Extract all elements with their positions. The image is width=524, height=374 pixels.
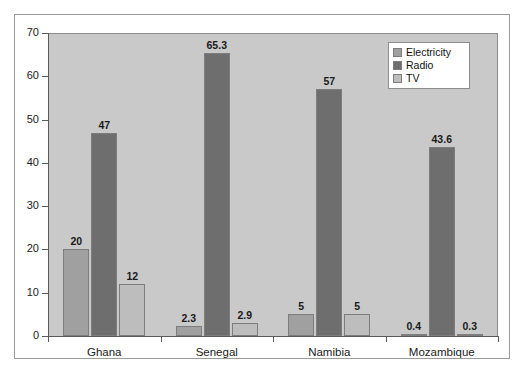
y-axis-tick <box>42 120 49 121</box>
x-axis-category-label: Mozambique <box>386 346 499 359</box>
bar[interactable] <box>91 133 117 336</box>
y-axis-tick-label-text: 70 <box>15 27 39 38</box>
legend-swatch-electricity-icon <box>393 48 402 57</box>
bar-value-label: 5 <box>337 301 377 312</box>
y-axis-tick-label: 30 <box>15 200 39 211</box>
y-axis-tick <box>42 76 49 77</box>
bar[interactable] <box>344 314 370 336</box>
x-axis-tick <box>161 336 162 342</box>
bar[interactable] <box>288 314 314 336</box>
bar-value-label: 0.4 <box>394 321 434 332</box>
bar-value-label: 47 <box>84 120 124 131</box>
bar-value-label: 57 <box>309 76 349 87</box>
bar-value-label: 65.3 <box>197 40 237 51</box>
bar[interactable] <box>316 89 342 336</box>
bar-slot <box>63 33 89 336</box>
bar-slot <box>119 33 145 336</box>
y-axis-tick-label-text: 60 <box>15 70 39 81</box>
x-axis-category-label: Ghana <box>48 346 161 359</box>
legend-label-radio: Radio <box>406 60 433 71</box>
y-axis-tick <box>42 293 49 294</box>
bar[interactable] <box>63 249 89 336</box>
legend-label-tv: TV <box>406 73 419 84</box>
bar-value-label: 2.3 <box>169 313 209 324</box>
y-axis-tick-label-text: 20 <box>15 243 39 254</box>
y-axis-tick-label-text: 0 <box>15 330 39 341</box>
bar-value-label: 12 <box>112 271 152 282</box>
bar[interactable] <box>176 326 202 336</box>
y-axis-tick-label: 50 <box>15 114 39 125</box>
y-axis-tick-label-text: 30 <box>15 200 39 211</box>
bar-slot <box>204 33 230 336</box>
bar-slot <box>176 33 202 336</box>
y-axis-tick-label-text: 50 <box>15 114 39 125</box>
y-axis-tick-label: 60 <box>15 70 39 81</box>
y-axis-tick-label: 20 <box>15 243 39 254</box>
legend-swatch-tv-icon <box>393 74 402 83</box>
bar-slot <box>232 33 258 336</box>
bar[interactable] <box>401 334 427 336</box>
legend-item-radio: Radio <box>393 59 465 71</box>
x-axis-tick <box>273 336 274 342</box>
bar[interactable] <box>429 147 455 336</box>
bar[interactable] <box>119 284 145 336</box>
bar-value-label: 0.3 <box>450 321 490 332</box>
chart-legend: Electricity Radio TV <box>388 42 470 89</box>
bar[interactable] <box>457 334 483 336</box>
y-axis-tick <box>42 163 49 164</box>
bar-value-label: 2.9 <box>225 310 265 321</box>
bar-slot <box>91 33 117 336</box>
y-axis-tick-label: 0 <box>15 330 39 341</box>
y-axis-tick <box>42 206 49 207</box>
y-axis-tick <box>42 33 49 34</box>
x-axis-tick <box>48 336 49 342</box>
legend-item-electricity: Electricity <box>393 46 465 58</box>
x-axis-tick <box>498 336 499 342</box>
y-axis-tick-label: 70 <box>15 27 39 38</box>
y-axis-line <box>48 33 49 337</box>
legend-item-tv: TV <box>393 72 465 84</box>
bar[interactable] <box>232 323 258 336</box>
legend-label-electricity: Electricity <box>406 47 451 58</box>
bar-value-label: 5 <box>281 301 321 312</box>
x-axis-category-label: Senegal <box>161 346 274 359</box>
y-axis-tick-label-text: 10 <box>15 287 39 298</box>
x-axis-category-label: Namibia <box>273 346 386 359</box>
bar[interactable] <box>204 53 230 336</box>
y-axis-tick-label: 10 <box>15 287 39 298</box>
legend-swatch-radio-icon <box>393 61 402 70</box>
bar-value-label: 20 <box>56 236 96 247</box>
y-axis-tick <box>42 249 49 250</box>
chart-frame: 010203040506070 GhanaSenegalNamibiaMozam… <box>14 14 510 359</box>
y-axis-tick-label-text: 40 <box>15 157 39 168</box>
bar-value-label: 43.6 <box>422 134 462 145</box>
bar-slot <box>344 33 370 336</box>
x-axis-tick <box>386 336 387 342</box>
y-axis-tick-label: 40 <box>15 157 39 168</box>
